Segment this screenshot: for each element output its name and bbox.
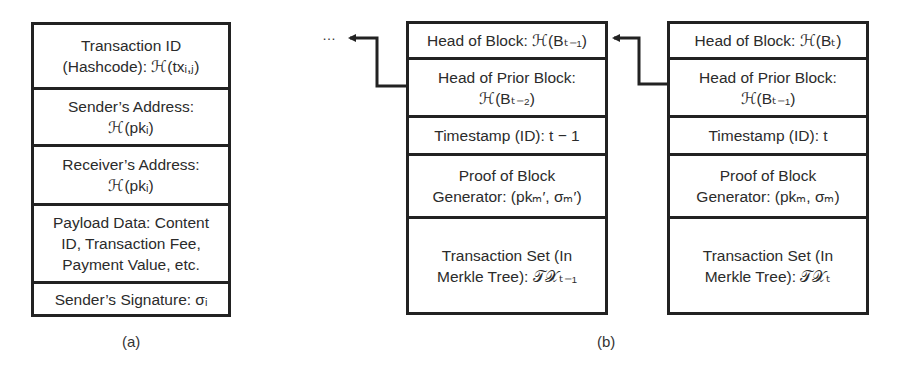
arrow-to-previous-block bbox=[350, 38, 407, 86]
cell-text: Generator: (pkₘ′, σₘ′) bbox=[432, 186, 581, 207]
cell-text: Sender’s Address: bbox=[68, 96, 194, 117]
cell-text: Generator: (pkₘ, σₘ) bbox=[696, 186, 839, 207]
head-of-prior-block-cell: Head of Prior Block: ℋ(Bₜ₋₂) bbox=[409, 57, 605, 115]
sender-address-cell: Sender’s Address: ℋ(pkᵢ) bbox=[34, 87, 228, 144]
cell-text: Timestamp (ID): t − 1 bbox=[434, 125, 579, 146]
head-of-prior-block-cell: Head of Prior Block: ℋ(Bₜ₋₁) bbox=[670, 57, 866, 115]
cell-text: (Hashcode): ℋ(txᵢ,ⱼ) bbox=[63, 56, 200, 77]
cell-text: ℋ(Bₜ₋₂) bbox=[479, 88, 535, 109]
caption-b: (b) bbox=[597, 333, 615, 350]
transaction-set-cell: Transaction Set (In Merkle Tree): 𝒯𝒳ₜ₋₁ bbox=[409, 216, 605, 312]
cell-text: Head of Prior Block: bbox=[438, 67, 576, 88]
cell-text: Transaction Set (In bbox=[442, 245, 572, 266]
cell-text: ID, Transaction Fee, bbox=[61, 233, 201, 254]
payload-data-cell: Payload Data: Content ID, Transaction Fe… bbox=[34, 203, 228, 281]
head-of-block-cell: Head of Block: ℋ(Bₜ) bbox=[670, 24, 866, 57]
cell-text: Head of Block: ℋ(Bₜ) bbox=[695, 30, 842, 51]
timestamp-cell: Timestamp (ID): t − 1 bbox=[409, 115, 605, 153]
cell-text: Receiver’s Address: bbox=[62, 154, 199, 175]
cell-text: ℋ(pkᵢ) bbox=[108, 175, 153, 196]
cell-text: Transaction Set (In bbox=[703, 245, 833, 266]
sender-signature-cell: Sender’s Signature: σᵢ bbox=[34, 281, 228, 314]
proof-of-block-generator-cell: Proof of Block Generator: (pkₘ′, σₘ′) bbox=[409, 153, 605, 216]
cell-text: ℋ(pkᵢ) bbox=[108, 117, 153, 138]
transaction-set-cell: Transaction Set (In Merkle Tree): 𝒯𝒳ₜ bbox=[670, 216, 866, 312]
block-t: Head of Block: ℋ(Bₜ) Head of Prior Block… bbox=[667, 21, 869, 315]
cell-text: Merkle Tree): 𝒯𝒳ₜ₋₁ bbox=[437, 266, 577, 287]
block-t-minus-1: Head of Block: ℋ(Bₜ₋₁) Head of Prior Blo… bbox=[406, 21, 608, 315]
ellipsis: … bbox=[322, 27, 336, 43]
cell-text: ℋ(Bₜ₋₁) bbox=[741, 88, 796, 109]
caption-a: (a) bbox=[122, 333, 140, 350]
cell-text: Merkle Tree): 𝒯𝒳ₜ bbox=[705, 266, 832, 287]
cell-text: Head of Block: ℋ(Bₜ₋₁) bbox=[427, 30, 587, 51]
cell-text: Payload Data: Content bbox=[53, 212, 209, 233]
cell-text: Proof of Block bbox=[459, 165, 556, 186]
transaction-id-cell: Transaction ID (Hashcode): ℋ(txᵢ,ⱼ) bbox=[34, 25, 228, 87]
cell-text: Timestamp (ID): t bbox=[708, 125, 827, 146]
cell-text: Payment Value, etc. bbox=[62, 254, 200, 275]
receiver-address-cell: Receiver’s Address: ℋ(pkᵢ) bbox=[34, 144, 228, 203]
transaction-box: Transaction ID (Hashcode): ℋ(txᵢ,ⱼ) Send… bbox=[31, 22, 231, 317]
head-of-block-cell: Head of Block: ℋ(Bₜ₋₁) bbox=[409, 24, 605, 57]
cell-text: Proof of Block bbox=[720, 165, 817, 186]
cell-text: Head of Prior Block: bbox=[699, 67, 837, 88]
cell-text: Transaction ID bbox=[81, 35, 181, 56]
proof-of-block-generator-cell: Proof of Block Generator: (pkₘ, σₘ) bbox=[670, 153, 866, 216]
cell-text: Sender’s Signature: σᵢ bbox=[55, 289, 208, 310]
timestamp-cell: Timestamp (ID): t bbox=[670, 115, 866, 153]
arrow-to-block-t-minus-1 bbox=[614, 38, 668, 84]
